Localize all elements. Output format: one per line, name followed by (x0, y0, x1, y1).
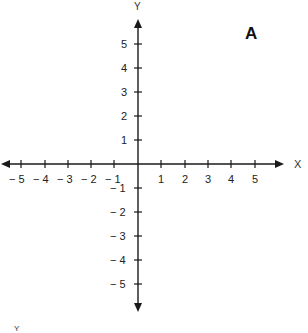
x-tick-label: 2 (182, 174, 188, 185)
bottom-fragment-label: Y (14, 324, 19, 333)
y-tick-label: − 4 (110, 255, 126, 266)
coordinate-plane (0, 0, 308, 333)
y-axis-top-arrow-icon (134, 19, 142, 28)
y-axis-bottom-arrow-icon (134, 303, 142, 312)
x-tick-label: − 4 (33, 174, 49, 185)
y-tick-label: 2 (121, 111, 127, 122)
x-tick-label: 1 (158, 174, 164, 185)
y-tick-label: − 3 (110, 231, 126, 242)
panel-label: A (245, 24, 257, 44)
x-tick-label: − 2 (81, 174, 97, 185)
y-tick-label: 1 (121, 135, 127, 146)
y-tick-label: − 2 (110, 207, 126, 218)
y-axis-label: Y (134, 1, 141, 12)
x-tick-label: − 5 (9, 174, 25, 185)
y-tick-label: − 5 (110, 279, 126, 290)
x-tick-label: 3 (205, 174, 211, 185)
x-tick-label: 4 (228, 174, 234, 185)
y-tick-label: 5 (121, 39, 127, 50)
x-axis-label: X (294, 158, 301, 170)
y-tick-label: 3 (121, 87, 127, 98)
x-tick-label: 5 (252, 174, 258, 185)
y-tick-label: − 1 (110, 183, 126, 194)
x-axis-left-arrow-icon (1, 160, 10, 168)
y-tick-label: 4 (121, 63, 127, 74)
x-axis-right-arrow-icon (275, 160, 284, 168)
x-tick-label: − 3 (57, 174, 73, 185)
